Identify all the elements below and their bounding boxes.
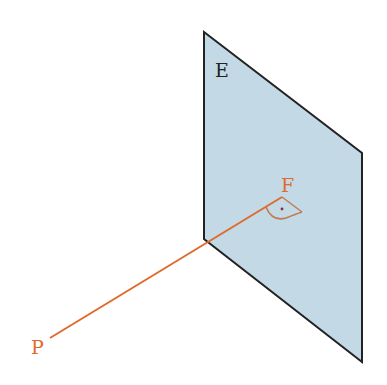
right-angle-dot — [281, 208, 284, 211]
foot-point-label: F — [281, 174, 294, 196]
point-p-label: P — [31, 336, 44, 358]
plane-label: E — [215, 59, 229, 81]
diagram-canvas: E F P — [0, 0, 387, 385]
diagram-svg: E F P — [0, 0, 387, 385]
